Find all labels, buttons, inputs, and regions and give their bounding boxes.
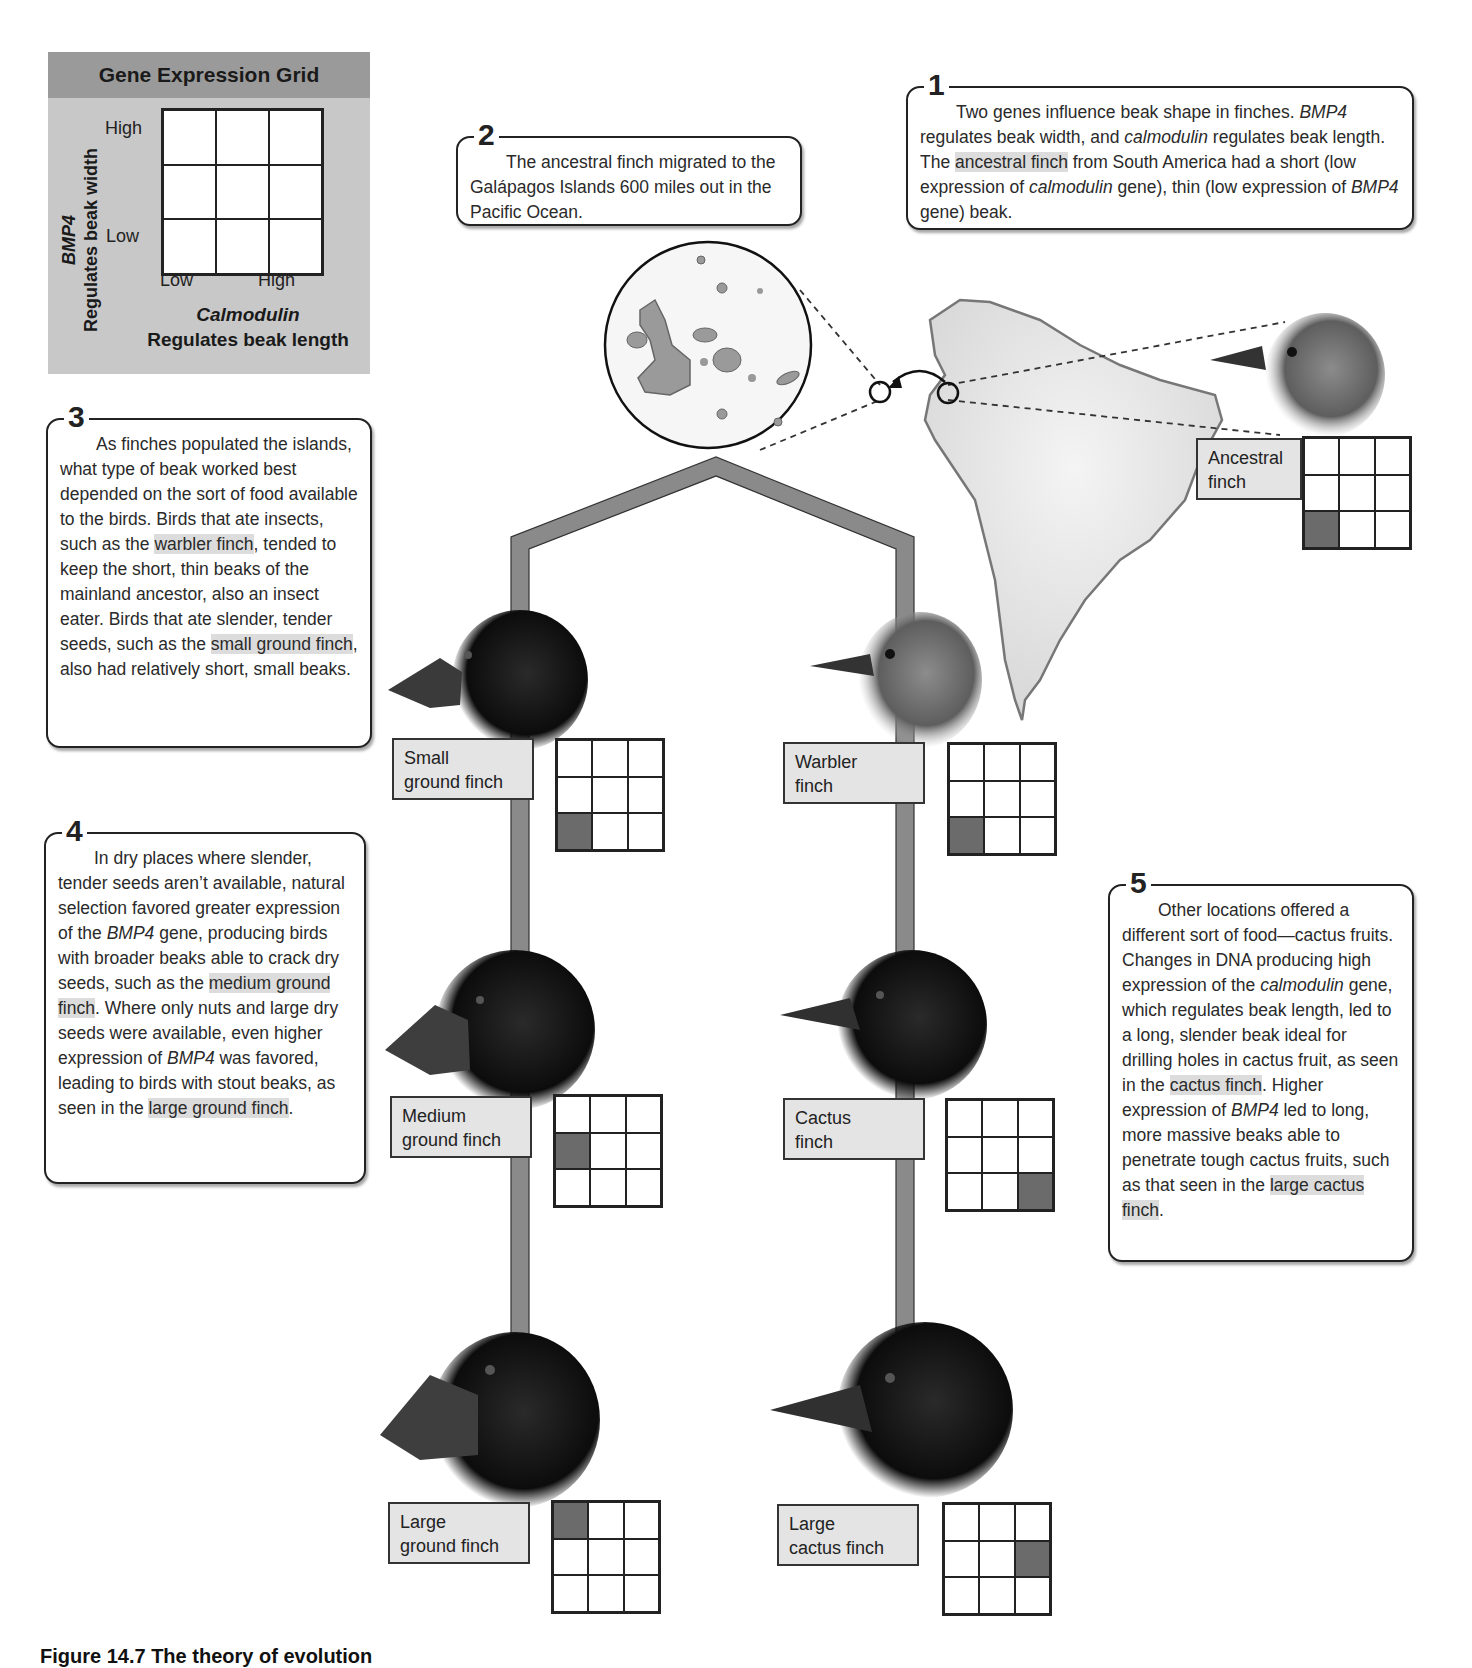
callout-1-text: Two genes influence beak shape in finche… bbox=[920, 100, 1402, 225]
grid-cell bbox=[1018, 1173, 1053, 1210]
callout-3-text: As finches populated the islands, what t… bbox=[60, 432, 360, 682]
species-grid-warbler-finch bbox=[947, 742, 1057, 856]
grid-cell bbox=[984, 744, 1019, 781]
species-label-medium-ground-finch: Mediumground finch bbox=[390, 1096, 532, 1158]
species-grid-ancestral-finch bbox=[1302, 436, 1412, 550]
callout-3: 3 As finches populated the islands, what… bbox=[46, 418, 372, 748]
grid-cell bbox=[592, 740, 627, 777]
species-label-cactus-finch: Cactusfinch bbox=[783, 1098, 925, 1160]
grid-cell bbox=[947, 1100, 982, 1137]
grid-cell bbox=[979, 1504, 1014, 1541]
species-label-ancestral-finch: Ancestralfinch bbox=[1196, 438, 1302, 500]
grid-cell bbox=[624, 1539, 659, 1576]
callout-4: 4 In dry places where slender, tender se… bbox=[44, 832, 366, 1184]
species-grid-medium-ground-finch bbox=[553, 1094, 663, 1208]
grid-cell bbox=[979, 1577, 1014, 1614]
callout-2-number: 2 bbox=[474, 118, 499, 152]
species-grid-small-ground-finch bbox=[555, 738, 665, 852]
grid-cell bbox=[1339, 438, 1374, 475]
small-ground-finch-illustration bbox=[388, 610, 588, 750]
grid-cell bbox=[553, 1575, 588, 1612]
grid-cell bbox=[949, 744, 984, 781]
grid-cell bbox=[1015, 1577, 1050, 1614]
species-grid-large-ground-finch bbox=[551, 1500, 661, 1614]
grid-cell bbox=[984, 781, 1019, 818]
evolution-tree-branches bbox=[520, 467, 905, 1355]
grid-cell bbox=[1304, 438, 1339, 475]
grid-cell bbox=[1375, 511, 1410, 548]
callout-1: 1 Two genes influence beak shape in finc… bbox=[906, 86, 1414, 230]
ancestral-finch-illustration bbox=[1210, 313, 1385, 437]
callout-4-text: In dry places where slender, tender seed… bbox=[58, 846, 354, 1121]
warbler-finch-illustration bbox=[810, 612, 982, 748]
grid-cell bbox=[1018, 1100, 1053, 1137]
grid-cell bbox=[588, 1539, 623, 1576]
evolution-tree-outline bbox=[511, 457, 914, 1355]
grid-cell bbox=[555, 1096, 590, 1133]
grid-cell bbox=[1375, 438, 1410, 475]
grid-cell bbox=[626, 1133, 661, 1170]
grid-cell bbox=[557, 740, 592, 777]
grid-cell bbox=[944, 1541, 979, 1578]
grid-cell bbox=[1339, 511, 1374, 548]
grid-cell bbox=[1339, 475, 1374, 512]
species-label-large-cactus-finch: Largecactus finch bbox=[777, 1504, 919, 1566]
grid-cell bbox=[555, 1169, 590, 1206]
species-label-warbler-finch: Warblerfinch bbox=[783, 742, 925, 804]
grid-cell bbox=[592, 813, 627, 850]
grid-cell bbox=[984, 817, 1019, 854]
species-label-large-ground-finch: Largeground finch bbox=[388, 1502, 530, 1564]
grid-cell bbox=[626, 1096, 661, 1133]
grid-cell bbox=[949, 781, 984, 818]
grid-cell bbox=[982, 1137, 1017, 1174]
migration-arrow bbox=[893, 371, 945, 382]
grid-cell bbox=[590, 1133, 625, 1170]
galapagos-islands-inset bbox=[605, 242, 811, 448]
grid-cell bbox=[949, 817, 984, 854]
grid-cell bbox=[1304, 511, 1339, 548]
callout-1-number: 1 bbox=[924, 68, 949, 102]
grid-cell bbox=[1304, 475, 1339, 512]
medium-ground-finch-illustration bbox=[385, 950, 595, 1110]
grid-cell bbox=[588, 1502, 623, 1539]
grid-cell bbox=[944, 1577, 979, 1614]
grid-cell bbox=[979, 1541, 1014, 1578]
callout-3-number: 3 bbox=[64, 400, 89, 434]
grid-cell bbox=[624, 1502, 659, 1539]
species-grid-cactus-finch bbox=[945, 1098, 1055, 1212]
species-grid-large-cactus-finch bbox=[942, 1502, 1052, 1616]
grid-cell bbox=[628, 777, 663, 814]
large-ground-finch-illustration bbox=[380, 1332, 600, 1508]
grid-cell bbox=[557, 777, 592, 814]
cactus-finch-illustration bbox=[780, 950, 987, 1100]
grid-cell bbox=[1020, 781, 1055, 818]
callout-5-number: 5 bbox=[1126, 866, 1151, 900]
callout-4-number: 4 bbox=[62, 814, 87, 848]
grid-cell bbox=[1018, 1137, 1053, 1174]
grid-cell bbox=[553, 1539, 588, 1576]
grid-cell bbox=[1020, 744, 1055, 781]
grid-cell bbox=[592, 777, 627, 814]
grid-cell bbox=[624, 1575, 659, 1612]
callout-5-text: Other locations offered a different sort… bbox=[1122, 898, 1402, 1223]
grid-cell bbox=[588, 1575, 623, 1612]
grid-cell bbox=[590, 1096, 625, 1133]
grid-cell bbox=[947, 1137, 982, 1174]
large-cactus-finch-illustration bbox=[770, 1322, 1013, 1498]
grid-cell bbox=[626, 1169, 661, 1206]
grid-cell bbox=[628, 740, 663, 777]
grid-cell bbox=[947, 1173, 982, 1210]
species-label-small-ground-finch: Smallground finch bbox=[392, 738, 534, 800]
grid-cell bbox=[628, 813, 663, 850]
figure-caption: Figure 14.7 The theory of evolution bbox=[40, 1645, 372, 1668]
grid-cell bbox=[553, 1502, 588, 1539]
grid-cell bbox=[982, 1173, 1017, 1210]
grid-cell bbox=[944, 1504, 979, 1541]
callout-2: 2 The ancestral finch migrated to the Ga… bbox=[456, 136, 802, 226]
grid-cell bbox=[1015, 1541, 1050, 1578]
grid-cell bbox=[590, 1169, 625, 1206]
grid-cell bbox=[1015, 1504, 1050, 1541]
callout-2-text: The ancestral finch migrated to the Galá… bbox=[470, 150, 790, 225]
grid-cell bbox=[1020, 817, 1055, 854]
grid-cell bbox=[557, 813, 592, 850]
